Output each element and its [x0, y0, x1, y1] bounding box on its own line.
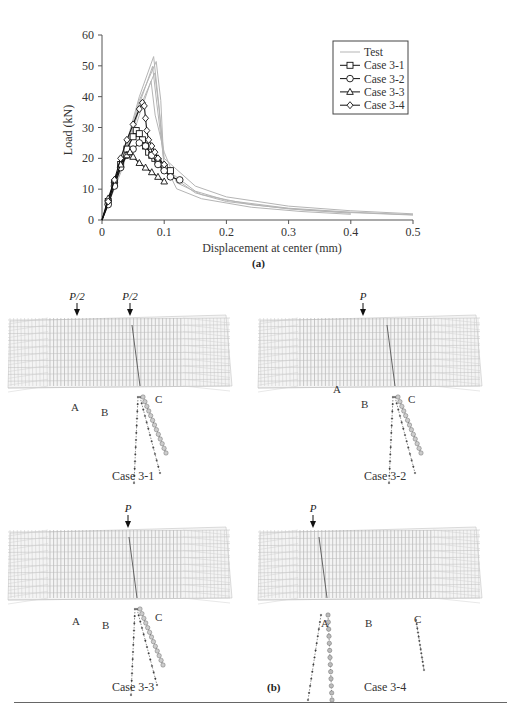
panel-b-label: (b): [267, 681, 280, 693]
legend-entry: Test: [364, 46, 384, 58]
load-label: P/2: [121, 290, 138, 302]
caption-case-3-1: Case 3-1: [112, 469, 154, 484]
x-axis-label: Displacement at center (mm): [202, 241, 342, 255]
point-label-a: A: [72, 615, 80, 627]
diagram-case-3-2: PABC: [258, 290, 482, 484]
load-label: P: [124, 502, 132, 514]
bottom-rule: [14, 702, 507, 703]
diagram-case-3-3: PABC: [8, 502, 232, 696]
point-label-b: B: [365, 617, 372, 629]
legend-entry: Case 3-2: [364, 73, 405, 85]
legend-entry: Case 3-1: [364, 59, 405, 71]
caption-case-3-4: Case 3-4: [364, 680, 406, 695]
diagram-case-3-4: PABC: [258, 502, 482, 702]
x-tick-label: 0.3: [281, 225, 296, 239]
load-displacement-chart: 00.10.20.30.40.50102030405060 TestCase 3…: [0, 0, 515, 262]
deformed-mesh-diagrams: P/2P/2ABCPABCPABCPABC: [0, 275, 515, 715]
caption-case-3-2: Case 3-2: [364, 469, 406, 484]
caption-case-3-3: Case 3-3: [112, 680, 154, 695]
y-tick-label: 20: [82, 151, 94, 165]
x-tick-label: 0.2: [219, 225, 234, 239]
legend-entry: Case 3-3: [364, 86, 405, 98]
point-label-c: C: [408, 393, 415, 405]
point-label-b: B: [102, 619, 109, 631]
x-tick-label: 0: [99, 225, 105, 239]
point-label-c: C: [414, 613, 421, 625]
load-label: P/2: [68, 290, 85, 302]
y-tick-label: 10: [82, 182, 94, 196]
point-label-a: A: [71, 401, 79, 413]
x-tick-label: 0.1: [157, 225, 172, 239]
y-tick-label: 40: [82, 90, 94, 104]
y-tick-label: 30: [82, 121, 94, 135]
point-label-c: C: [155, 611, 162, 623]
load-label: P: [309, 502, 317, 514]
panel-a-label: (a): [252, 257, 265, 269]
point-label-b: B: [361, 398, 368, 410]
legend-entry: Case 3-4: [364, 99, 405, 111]
y-axis-label: Load (kN): [61, 105, 75, 155]
point-label-c: C: [155, 393, 162, 405]
y-tick-label: 0: [88, 213, 94, 227]
y-tick-label: 50: [82, 59, 94, 73]
point-label-b: B: [101, 406, 108, 418]
diagram-case-3-1: P/2P/2ABC: [8, 290, 232, 484]
x-tick-label: 0.4: [343, 225, 358, 239]
y-tick-label: 60: [82, 28, 94, 42]
load-label: P: [359, 290, 367, 302]
x-tick-label: 0.5: [406, 225, 421, 239]
point-label-a: A: [333, 383, 341, 395]
chart-legend: TestCase 3-1Case 3-2Case 3-3Case 3-4: [333, 41, 408, 114]
